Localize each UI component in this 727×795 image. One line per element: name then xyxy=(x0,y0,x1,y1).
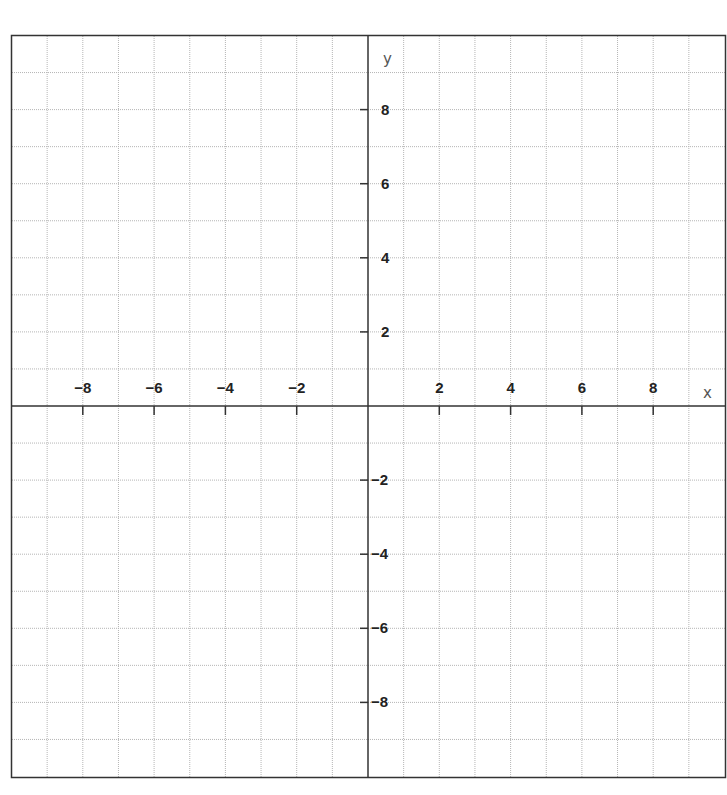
y-tick-label: −8 xyxy=(371,693,388,710)
y-tick-label: 2 xyxy=(381,323,389,340)
y-tick-label: −2 xyxy=(371,471,388,488)
y-tick-label: 8 xyxy=(381,101,389,118)
x-tick-label: −6 xyxy=(146,379,163,396)
x-tick-label: −2 xyxy=(288,379,305,396)
x-tick-label: 2 xyxy=(435,379,443,396)
y-tick-label: −4 xyxy=(371,545,389,562)
y-axis-label: y xyxy=(383,50,392,68)
x-tick-label: 8 xyxy=(649,379,657,396)
x-tick-label: 6 xyxy=(578,379,586,396)
y-tick-label: −6 xyxy=(371,619,388,636)
x-tick-label: −8 xyxy=(74,379,91,396)
x-axis-label: x xyxy=(703,384,712,402)
y-tick-label: 6 xyxy=(381,175,389,192)
coordinate-plane: −8−6−4−224688642−2−4−6−8 x y xyxy=(0,0,727,795)
x-tick-label: 4 xyxy=(506,379,515,396)
y-tick-label: 4 xyxy=(381,249,390,266)
x-tick-label: −4 xyxy=(217,379,235,396)
